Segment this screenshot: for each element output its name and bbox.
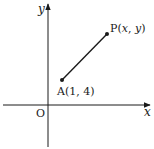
coordinate-diagram: y x O A(1, 4) P(x, y) [0,0,154,149]
point-p-label: P(x, y) [110,22,145,35]
origin-label: O [36,107,45,120]
point-a-label: A(1, 4) [56,85,95,98]
point-p-sep: , [128,22,135,35]
y-axis-label: y [37,2,45,16]
point-p [105,32,109,36]
point-p-close: ) [141,22,145,35]
x-axis-label: x [144,105,151,119]
point-a [60,78,64,82]
segment-ap [62,34,107,80]
